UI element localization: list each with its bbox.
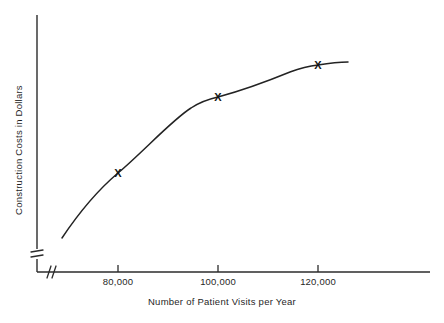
x-axis-title: Number of Patient Visits per Year xyxy=(148,296,296,307)
chart-container: 80,000 100,000 120,000 X X X Constructio… xyxy=(0,0,444,323)
x-tick-label-80000: 80,000 xyxy=(103,276,133,287)
data-point-marker-80000: X xyxy=(114,167,122,179)
x-tick-label-100000: 100,000 xyxy=(200,276,236,287)
x-tick-label-120000: 120,000 xyxy=(300,276,336,287)
y-axis-break-icon xyxy=(31,250,43,257)
data-point-marker-120000: X xyxy=(314,59,322,71)
y-axis-title: Construction Costs in Dollars xyxy=(13,85,24,215)
chart-plot-area: 80,000 100,000 120,000 X X X Constructio… xyxy=(0,0,444,323)
construction-cost-curve xyxy=(62,62,348,238)
data-point-marker-100000: X xyxy=(214,91,222,103)
